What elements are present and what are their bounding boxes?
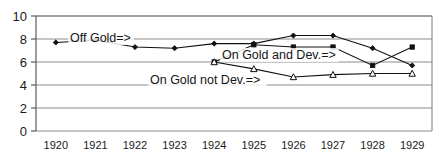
data-point-diamond-1920 <box>53 40 58 45</box>
data-point-diamond-1926 <box>291 33 296 38</box>
annotation-text-1: Off Gold=> <box>70 31 131 45</box>
annotation-label-3: On Gold not Dev.=> <box>148 73 267 87</box>
chart-container: 0246810192019211922192319241925192619271… <box>0 0 441 159</box>
x-axis-label-1925: 1925 <box>242 139 266 151</box>
data-point-square-1928 <box>370 63 374 67</box>
data-point-diamond-1927 <box>330 33 335 38</box>
line-chart: 0246810192019211922192319241925192619271… <box>0 0 441 159</box>
y-axis-label-6: 6 <box>20 55 27 70</box>
annotation-label-2: On Gold and Dev.=> <box>220 48 339 62</box>
y-axis-label-10: 10 <box>13 9 27 24</box>
y-axis-label-2: 2 <box>20 101 27 116</box>
x-axis-label-1929: 1929 <box>400 139 424 151</box>
data-point-diamond-1929 <box>410 63 415 68</box>
x-axis-label-1921: 1921 <box>83 139 107 151</box>
x-axis-label-1920: 1920 <box>44 139 68 151</box>
data-point-square-1925 <box>252 43 256 47</box>
annotation-label-1: Off Gold=> <box>68 31 134 45</box>
x-axis-label-1927: 1927 <box>321 139 345 151</box>
x-axis-label-1923: 1923 <box>162 139 186 151</box>
data-point-diamond-1924 <box>212 41 217 46</box>
data-point-square-1929 <box>410 45 414 49</box>
x-axis-label-1926: 1926 <box>281 139 305 151</box>
x-axis-label-1922: 1922 <box>123 139 147 151</box>
x-axis-label-1924: 1924 <box>202 139 226 151</box>
data-point-diamond-1923 <box>172 46 177 51</box>
data-point-diamond-1928 <box>370 46 375 51</box>
annotation-text-2: On Gold and Dev.=> <box>222 48 336 62</box>
y-axis-label-4: 4 <box>20 78 27 93</box>
x-axis-label-1928: 1928 <box>360 139 384 151</box>
y-axis-label-0: 0 <box>20 124 27 139</box>
data-point-diamond-1922 <box>132 44 137 49</box>
y-axis-label-8: 8 <box>20 32 27 47</box>
annotation-text-3: On Gold not Dev.=> <box>150 73 260 87</box>
